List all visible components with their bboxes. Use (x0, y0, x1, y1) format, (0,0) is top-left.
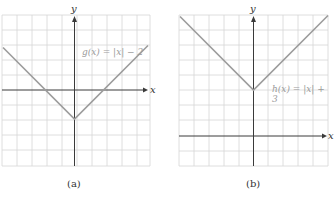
caption-a: (a) (67, 178, 81, 189)
caption-b: (b) (246, 178, 260, 189)
function-label-g: g(x) = |x| − 2 (82, 47, 143, 57)
x-axis-label-b: x (328, 130, 334, 141)
x-axis-label-a: x (150, 84, 156, 95)
graph-a-svg (0, 0, 166, 198)
graph-panel-a: y x g(x) = |x| − 2 (a) (0, 0, 166, 198)
graph-panel-b: y x h(x) = |x| + 3 (b) (166, 0, 332, 198)
x-axis-arrow-icon (143, 88, 148, 93)
y-axis-arrow-icon (251, 16, 256, 22)
y-axis-label-b: y (250, 3, 256, 14)
function-label-h: h(x) = |x| + 3 (272, 84, 332, 104)
x-axis-arrow-icon (322, 134, 327, 139)
y-axis-arrow-icon (72, 16, 77, 22)
y-axis-label-a: y (71, 3, 77, 14)
